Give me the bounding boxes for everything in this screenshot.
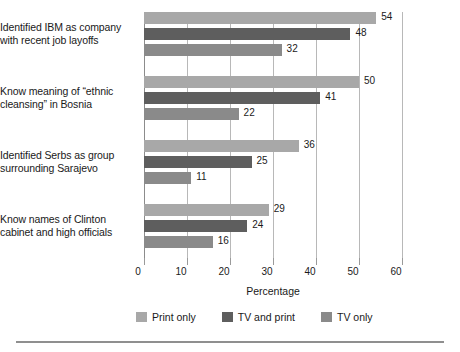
- bar-row: 24: [144, 220, 402, 232]
- bar[interactable]: [144, 140, 299, 152]
- legend-label: TV and print: [238, 311, 295, 323]
- bar-value-label: 50: [364, 75, 375, 87]
- x-tick-mark-30: [273, 258, 274, 265]
- x-tick-mark-60: [402, 258, 403, 265]
- x-tick-label-50: 50: [347, 266, 358, 277]
- bar[interactable]: [144, 172, 191, 184]
- legend-swatch-icon: [321, 312, 332, 322]
- x-tick-mark-10: [187, 258, 188, 265]
- bar-value-label: 16: [218, 235, 229, 247]
- bar-value-label: 48: [355, 27, 366, 39]
- bar-value-label: 41: [325, 91, 336, 103]
- bar-row: 11: [144, 172, 402, 184]
- bar[interactable]: [144, 92, 320, 104]
- bar[interactable]: [144, 156, 252, 168]
- bar-series-container: 544832504122362511292416: [144, 12, 402, 260]
- category-label: Identified Serbs as groupsurrounding Sar…: [0, 149, 126, 174]
- category-label-line: Know meaning of “ethnic: [0, 85, 126, 98]
- category-label-line: Identified IBM as company: [0, 21, 126, 34]
- x-tick-label-0: 0: [135, 266, 141, 277]
- bar-row: 16: [144, 236, 402, 248]
- bar[interactable]: [144, 220, 247, 232]
- x-axis: 0102030405060: [144, 258, 434, 280]
- bar-value-label: 54: [381, 11, 392, 23]
- bar-value-label: 25: [257, 155, 268, 167]
- category-axis-labels: Identified IBM as companywith recent job…: [0, 0, 138, 260]
- bottom-divider: [16, 341, 444, 343]
- bar-row: 32: [144, 44, 402, 56]
- category-label-line: surrounding Sarajevo: [0, 162, 126, 175]
- x-axis-title: Percentage: [144, 285, 402, 297]
- category-label: Identified IBM as companywith recent job…: [0, 21, 126, 46]
- category-label-line: Identified Serbs as group: [0, 149, 126, 162]
- bar-value-label: 11: [196, 171, 206, 183]
- bar-group: 504122: [144, 76, 402, 124]
- legend-item[interactable]: TV only: [321, 311, 373, 323]
- category-label-line: with recent job layoffs: [0, 34, 126, 47]
- bar-row: 29: [144, 204, 402, 216]
- x-tick-mark-20: [230, 258, 231, 265]
- legend-item[interactable]: TV and print: [222, 311, 295, 323]
- chart-legend: Print onlyTV and printTV only: [136, 311, 399, 323]
- bar-value-label: 24: [252, 219, 263, 231]
- x-tick-label-20: 20: [218, 266, 229, 277]
- bar-group: 292416: [144, 204, 402, 252]
- bar[interactable]: [144, 76, 359, 88]
- bar-group: 362511: [144, 140, 402, 188]
- bar-row: 54: [144, 12, 402, 24]
- bar-value-label: 29: [274, 203, 285, 215]
- x-tick-mark-50: [359, 258, 360, 265]
- category-label: Know meaning of “ethniccleansing” in Bos…: [0, 85, 126, 110]
- legend-label: Print only: [152, 311, 196, 323]
- legend-label: TV only: [337, 311, 373, 323]
- bar[interactable]: [144, 204, 269, 216]
- chart-figure: Identified IBM as companywith recent job…: [0, 0, 460, 352]
- bar[interactable]: [144, 236, 213, 248]
- bar[interactable]: [144, 108, 239, 120]
- bar-row: 41: [144, 92, 402, 104]
- bar-row: 25: [144, 156, 402, 168]
- category-label-line: Know names of Clinton: [0, 213, 126, 226]
- category-label-line: cleansing” in Bosnia: [0, 98, 126, 111]
- plot-area: 544832504122362511292416: [144, 12, 402, 260]
- bar-group: 544832: [144, 12, 402, 60]
- x-tick-label-30: 30: [261, 266, 272, 277]
- legend-swatch-icon: [136, 312, 147, 322]
- legend-item[interactable]: Print only: [136, 311, 196, 323]
- x-tick-label-40: 40: [304, 266, 315, 277]
- gridline-60: [402, 12, 403, 260]
- bar[interactable]: [144, 28, 350, 40]
- legend-swatch-icon: [222, 312, 233, 322]
- bar-row: 22: [144, 108, 402, 120]
- x-tick-mark-0: [144, 258, 145, 265]
- bar-value-label: 36: [304, 139, 315, 151]
- bar-value-label: 22: [244, 107, 255, 119]
- bar-row: 48: [144, 28, 402, 40]
- bar[interactable]: [144, 12, 376, 24]
- bar-row: 50: [144, 76, 402, 88]
- bar-row: 36: [144, 140, 402, 152]
- x-tick-mark-40: [316, 258, 317, 265]
- category-label-line: cabinet and high officials: [0, 226, 126, 239]
- bar-value-label: 32: [287, 43, 298, 55]
- x-tick-label-60: 60: [390, 266, 401, 277]
- category-label: Know names of Clintoncabinet and high of…: [0, 213, 126, 238]
- bar[interactable]: [144, 44, 282, 56]
- x-tick-label-10: 10: [175, 266, 186, 277]
